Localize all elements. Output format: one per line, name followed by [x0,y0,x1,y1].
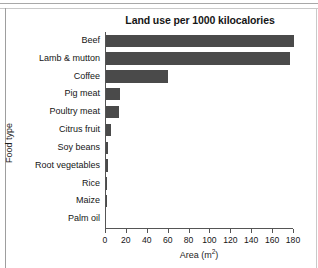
bar [106,35,294,47]
y-axis-tick-label: Root vegetables [35,157,100,175]
bar [106,106,119,118]
chart-container: Land use per 1000 kilocalories Food type… [0,8,318,268]
y-axis-tick-label: Maize [76,192,100,210]
y-axis-tick-label: Coffee [74,68,100,86]
x-axis-title-close: ) [215,250,218,260]
x-axis-tick [209,229,210,233]
bar [106,177,107,189]
y-axis-tick-label: Soy beans [57,139,100,157]
y-axis-tick-label: Pig meat [64,85,100,103]
x-axis-tick [272,229,273,233]
x-axis-tick [147,229,148,233]
bar [106,195,107,207]
bar [106,70,168,82]
x-axis-tick [168,229,169,233]
bar [106,124,111,136]
chart-screenshot: Land use per 1000 kilocalories Food type… [0,0,318,268]
plot-area: BeefLamb & muttonCoffeePig meatPoultry m… [105,32,293,228]
x-axis-tick [251,229,252,233]
chart-title: Land use per 1000 kilocalories [105,14,295,26]
x-axis-title-text: Area (m [180,250,212,260]
y-axis-title: Food type [4,108,14,178]
bar [106,88,120,100]
x-axis-title: Area (m2) [105,248,293,260]
y-axis-tick-label: Poultry meat [49,103,100,121]
x-axis-tick [230,229,231,233]
x-axis-line [105,228,293,229]
y-axis-tick-label: Palm oil [68,210,100,228]
x-axis-tick [105,229,106,233]
bar [106,142,108,154]
x-axis-tick-label: 180 [280,235,306,245]
bar [106,159,108,171]
y-axis-tick-label: Beef [81,32,100,50]
x-axis-tick [126,229,127,233]
x-axis-tick [293,229,294,233]
bar [106,52,290,64]
y-axis-tick-label: Lamb & mutton [39,50,100,68]
frame-border-top [0,3,318,4]
y-axis-tick-label: Citrus fruit [59,121,100,139]
x-axis-tick [189,229,190,233]
y-axis-tick-label: Rice [82,175,100,193]
